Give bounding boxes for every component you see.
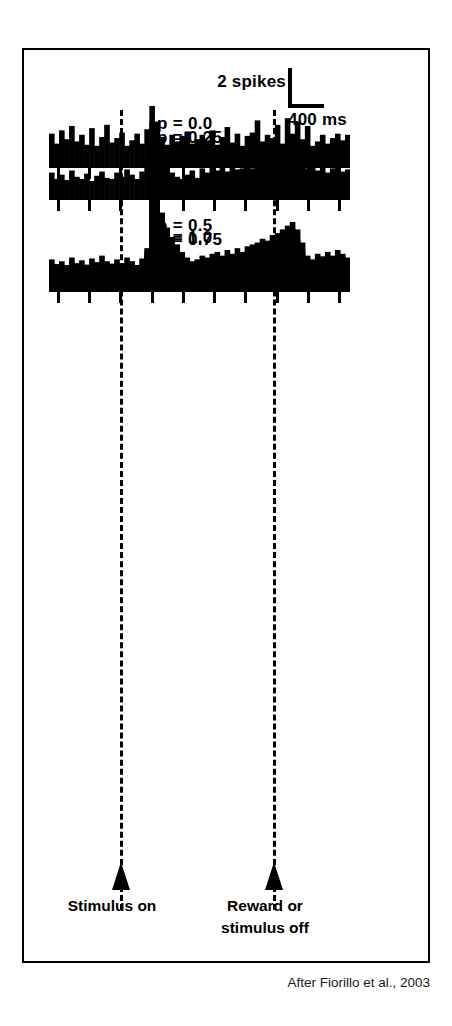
stimulus-on-arrow-icon [112,862,130,890]
axis-tick-row [49,292,350,303]
citation: After Fiorillo et al., 2003 [0,975,430,990]
figure-frame: 2 spikes 400 ms p = 0.0p = 0.25p = 0.5p … [22,48,430,963]
axis-tick [244,292,247,303]
histogram-panel: p = 1.0 [49,168,350,303]
reward-caption-line-2: stimulus off [221,919,309,936]
scale-bar [288,68,324,108]
axis-tick [119,292,122,303]
axis-tick [57,292,60,303]
axis-tick [182,292,185,303]
stimulus-on-caption: Stimulus on [38,895,186,917]
axis-tick [213,292,216,303]
axis-tick [276,292,279,303]
stimulus-on-caption-text: Stimulus on [68,897,157,914]
reward-or-stimulus-off-caption: Reward or stimulus off [200,895,330,940]
histogram-plot: p = 1.0 [49,168,350,292]
scale-bar-spikes-label: 2 spikes [174,72,286,92]
panel-probability-label: p = 0.25 [157,128,222,148]
reward-caption-line-1: Reward or [227,897,303,914]
axis-tick [338,292,341,303]
axis-tick [307,292,310,303]
panel-probability-label: p = 1.0 [157,228,213,248]
axis-tick [88,292,91,303]
axis-tick [151,292,154,303]
reward-or-stimulus-off-arrow-icon [265,862,283,890]
